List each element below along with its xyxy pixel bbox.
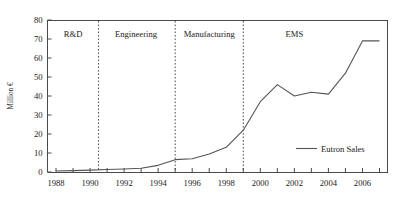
y-tick-label: 80 [34, 15, 43, 25]
y-tick-label: 50 [34, 72, 43, 82]
phase-label: Manufacturing [184, 29, 236, 39]
y-tick-label: 10 [34, 148, 43, 158]
y-axis-ticks: 01020304050607080 [34, 15, 52, 177]
phase-divider-lines [99, 21, 244, 171]
phase-label: EMS [286, 29, 304, 39]
x-tick-label: 2006 [354, 178, 372, 188]
phase-label: Engineering [115, 29, 158, 39]
x-tick-label: 1998 [218, 178, 235, 188]
x-tick-label: 1994 [150, 178, 168, 188]
y-axis-title: Million € [7, 82, 15, 109]
x-tick-label: 1990 [81, 178, 98, 188]
y-tick-label: 30 [34, 110, 43, 120]
y-tick-label: 60 [34, 53, 43, 63]
y-tick-label: 70 [34, 34, 43, 44]
x-tick-label: 1992 [116, 178, 133, 188]
x-tick-label: 2000 [252, 178, 269, 188]
phase-label: R&D [64, 29, 83, 39]
line-chart: 01020304050607080 1988199019921994199619… [0, 0, 412, 206]
x-tick-label: 2002 [286, 178, 303, 188]
chart-legend: Eutron Sales [296, 144, 365, 154]
y-tick-label: 0 [38, 167, 42, 177]
y-tick-label: 20 [34, 129, 43, 139]
y-tick-label: 40 [34, 91, 43, 101]
x-axis-ticks: 1988199019921994199619982000200220042006 [47, 168, 379, 188]
x-tick-label: 1996 [184, 178, 202, 188]
x-tick-label: 2004 [320, 178, 338, 188]
x-tick-label: 1988 [47, 178, 64, 188]
phase-labels: R&DEngineeringManufacturingEMS [64, 29, 304, 39]
legend-label-eutron-sales: Eutron Sales [321, 144, 365, 154]
chart-container: 01020304050607080 1988199019921994199619… [0, 0, 412, 206]
